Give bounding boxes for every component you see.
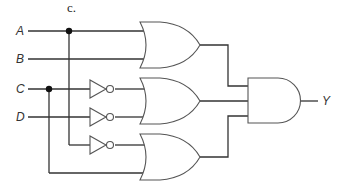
or-gate-2 xyxy=(140,78,200,124)
or-gate-3 xyxy=(140,134,200,180)
inverter-a xyxy=(90,136,114,154)
inverter-c xyxy=(90,80,114,98)
inverter-d xyxy=(90,108,114,126)
and-gate xyxy=(248,78,301,123)
or-gate-1 xyxy=(140,22,200,68)
junction-dot-a xyxy=(66,28,72,34)
junction-dot-c xyxy=(46,86,52,92)
logic-circuit xyxy=(0,0,338,193)
